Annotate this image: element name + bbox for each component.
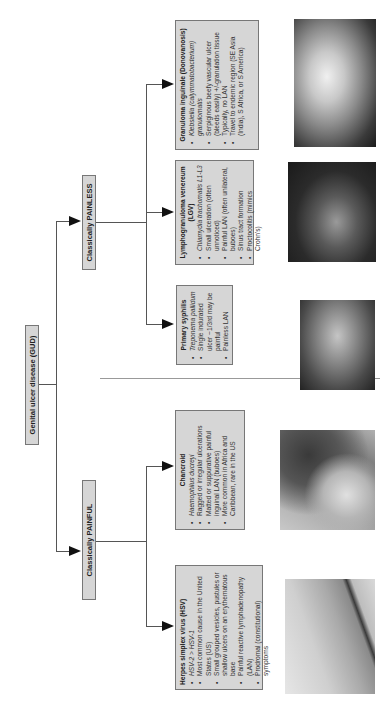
syphilis-clinical-photo — [300, 300, 375, 390]
granuloma-title: Granuloma inguinale (Donovanosis) — [179, 25, 187, 145]
branch-box-painful: Classically PAINFUL — [82, 480, 96, 600]
arrow-to-lgv — [162, 207, 174, 217]
syphilis-bullets: Treponema pallidum Single indurated ulce… — [189, 290, 230, 360]
granuloma-bullet: Klebsiella (calymmatobacterium) granulom… — [188, 25, 204, 136]
syphilis-bullet: Treponema pallidum — [189, 290, 197, 351]
gud-diagram: Genital ulcer disease (GUD) Classically … — [0, 0, 392, 702]
branch-label-painless: Classically PAINLESS — [85, 184, 94, 262]
lgv-bullet: Chlamydia trachomatis L1-L3 — [196, 165, 204, 251]
lgv-bullet: Small ulceration (often unnoticed) — [205, 165, 221, 251]
syphilis-bullet: Single indurated ulcer ~1/3rd may be pai… — [197, 290, 222, 351]
branch-label-painful: Classically PAINFUL — [85, 504, 94, 577]
hsv-clinical-photo — [285, 579, 375, 694]
arrow-to-granuloma — [162, 79, 174, 89]
arrow-to-syphilis — [162, 319, 174, 329]
chancroid-title: Chancroid — [179, 415, 187, 525]
lgv-title: Lymphogranuloma venereum (LGV) — [179, 165, 195, 260]
lgv-clinical-photo — [288, 162, 376, 262]
disease-box-hsv: Herpes simplex virus (HSV) HSV-2 > HSV-1… — [175, 565, 263, 690]
lgv-bullet: Painful LAN (often unilateral, buboes) — [221, 165, 237, 251]
arrow-to-painless — [69, 216, 81, 226]
lgv-bullets: Chlamydia trachomatis L1-L3 Small ulcera… — [196, 165, 262, 260]
connector-painful-stem — [96, 541, 146, 542]
hsv-title: Herpes simplex virus (HSV) — [179, 570, 187, 685]
disease-box-chancroid: Chancroid Haemophilus ducreyi Ragged or … — [175, 410, 245, 530]
granuloma-bullets: Klebsiella (calymmatobacterium) granulom… — [188, 25, 245, 145]
connector-painful-horizontal — [146, 467, 147, 627]
connector-root-horizontal — [56, 222, 57, 552]
chancroid-bullet: Ragged or irregular ulcerations — [196, 415, 204, 516]
lgv-bullet: Proctocolitis (mimics Crohn's) — [246, 165, 262, 251]
connector-painless-stem — [96, 222, 146, 223]
root-label: Genital ulcer disease (GUD) — [28, 336, 37, 435]
disease-box-lgv: Lymphogranuloma venereum (LGV) Chlamydia… — [175, 160, 254, 265]
lgv-bullet: Sinus tract formation — [237, 165, 245, 251]
chancroid-bullet: Haemophilus ducreyi — [188, 415, 196, 516]
hsv-bullet: Painful reactive lymphadenopathy (LAN) — [237, 570, 253, 676]
syphilis-bullet: Painless LAN — [222, 290, 230, 351]
granuloma-clinical-photo — [294, 19, 376, 147]
arrow-to-painful — [69, 546, 81, 556]
chancroid-bullet: More common in Africa and Caribbean, rar… — [221, 415, 237, 516]
hsv-bullets: HSV-2 > HSV-1 Most common cause in the U… — [188, 570, 270, 685]
hsv-bullet: Small grouped vesicles, pustules or shal… — [213, 570, 238, 676]
hsv-bullet: Prodromal (constitutional) symptoms — [254, 570, 270, 676]
hsv-bullet: HSV-2 > HSV-1 — [188, 570, 196, 676]
granuloma-bullet: Travel to endemic region (SE Asia (India… — [229, 25, 245, 136]
connector-root-stem — [39, 384, 57, 385]
disease-box-syphilis: Primary syphilis Treponema pallidum Sing… — [176, 285, 233, 365]
syphilis-title: Primary syphilis — [180, 290, 188, 360]
arrow-to-chancroid — [162, 461, 174, 471]
chancroid-bullet: Matted or suppurative painful inguinal L… — [205, 415, 221, 516]
root-box-gud: Genital ulcer disease (GUD) — [25, 325, 39, 445]
granuloma-bullet: Typically, no LAN — [221, 25, 229, 136]
connector-painless-horizontal — [146, 85, 147, 325]
granuloma-bullet: Serpiginous beefy vascular ulcer (bleeds… — [205, 25, 221, 136]
arrow-to-hsv — [162, 621, 174, 631]
chancroid-bullets: Haemophilus ducreyi Ragged or irregular … — [188, 415, 237, 525]
disease-box-granuloma: Granuloma inguinale (Donovanosis) Klebsi… — [175, 20, 259, 150]
hsv-bullet: Most common cause in the United States (… — [196, 570, 212, 676]
branch-box-painless: Classically PAINLESS — [82, 175, 96, 270]
chancroid-clinical-photo — [280, 430, 375, 530]
